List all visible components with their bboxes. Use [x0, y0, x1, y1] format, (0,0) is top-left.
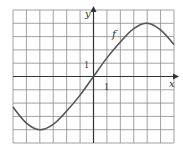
y-tick-1: 1 [84, 59, 89, 70]
x-tick-1: 1 [104, 81, 109, 92]
axes [13, 6, 179, 143]
chart-canvas: y x f 1 1 [0, 0, 183, 148]
x-axis-label: x [169, 78, 175, 89]
y-axis-label: y [84, 8, 91, 19]
curve-label-f: f [111, 28, 118, 41]
